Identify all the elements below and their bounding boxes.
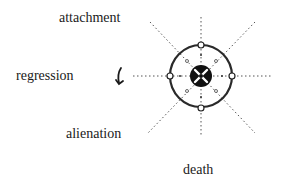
node-top — [198, 42, 204, 48]
node-bottom — [198, 105, 204, 111]
center-disc-icon — [190, 65, 212, 87]
curved-down-arrow-icon — [116, 68, 123, 84]
node-left — [167, 73, 173, 79]
node-right — [229, 73, 235, 79]
radial-diagram — [0, 0, 282, 190]
